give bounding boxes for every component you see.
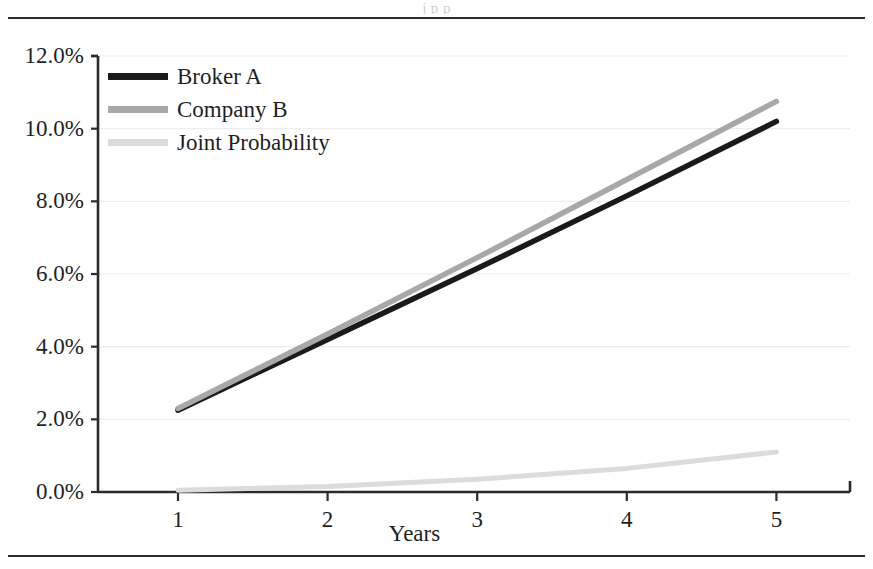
figure-bottom-rule bbox=[8, 555, 865, 557]
y-axis-tick-label: 4.0% bbox=[4, 335, 84, 358]
legend-item: Joint Probability bbox=[108, 126, 330, 159]
y-axis-tick-label: 0.0% bbox=[4, 480, 84, 503]
series-line-broker-a bbox=[178, 121, 776, 410]
series-line-joint-probability bbox=[178, 452, 776, 490]
legend-item-label: Broker A bbox=[177, 65, 262, 88]
legend-item: Company B bbox=[108, 93, 330, 126]
legend-item-label: Company B bbox=[177, 98, 288, 121]
caption-clipped-text: j p p bbox=[0, 0, 873, 14]
y-axis-tick-label: 6.0% bbox=[4, 262, 84, 285]
y-axis-tick-label: 8.0% bbox=[4, 189, 84, 212]
series-lines-group bbox=[178, 101, 776, 490]
y-axis-tick-label: 12.0% bbox=[4, 44, 84, 67]
y-axis-tick-label: 2.0% bbox=[4, 407, 84, 430]
legend-item-label: Joint Probability bbox=[177, 131, 330, 154]
y-axis-tick-label: 10.0% bbox=[4, 117, 84, 140]
legend-color-swatch bbox=[108, 139, 168, 146]
figure-top-rule bbox=[8, 17, 865, 19]
x-axis-title: Years bbox=[0, 521, 873, 547]
figure-container: j p p 0.0%2.0%4.0%6.0%8.0%10.0%12.0% 123… bbox=[0, 0, 873, 569]
legend-color-swatch bbox=[108, 73, 168, 80]
legend-item: Broker A bbox=[108, 60, 330, 93]
chart-legend: Broker ACompany BJoint Probability bbox=[108, 60, 330, 159]
x-axis-title-text: Years bbox=[389, 521, 440, 547]
legend-color-swatch bbox=[108, 106, 168, 113]
